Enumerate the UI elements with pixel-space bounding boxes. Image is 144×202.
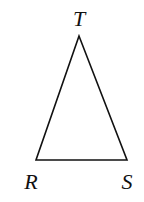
vertex-label-T: T [73,6,87,31]
vertex-label-R: R [23,169,38,194]
triangle-TRS [36,36,127,160]
triangle-diagram: T R S [0,0,144,202]
vertex-label-S: S [122,169,133,194]
